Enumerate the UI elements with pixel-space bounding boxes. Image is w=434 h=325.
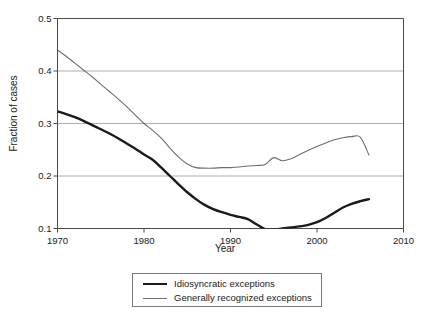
x-tick-label: 1980 <box>124 235 164 246</box>
x-tick-label: 2010 <box>384 235 424 246</box>
y-tick-label: 0.4 <box>26 65 52 76</box>
y-tick-label: 0.5 <box>26 13 52 24</box>
legend-label: Generally recognized exceptions <box>174 293 312 303</box>
chart-figure: Fraction of cases Year 0.10.20.30.40.5 1… <box>0 0 434 325</box>
y-tick-label: 0.2 <box>26 170 52 181</box>
series-line-0 <box>58 111 369 229</box>
y-tick-label: 0.1 <box>26 223 52 234</box>
legend-swatch-icon <box>143 298 167 299</box>
legend-label: Idiosyncratic exceptions <box>174 279 275 289</box>
x-tick-label: 1990 <box>211 235 251 246</box>
x-tick-label: 2000 <box>297 235 337 246</box>
legend-item-generally-recognized: Generally recognized exceptions <box>143 291 312 305</box>
series-line-1 <box>58 50 369 168</box>
legend-item-idiosyncratic: Idiosyncratic exceptions <box>143 277 275 291</box>
x-tick-label: 1970 <box>38 235 78 246</box>
legend-swatch-icon <box>143 283 167 285</box>
legend: Idiosyncratic exceptions Generally recog… <box>132 273 322 307</box>
y-tick-label: 0.3 <box>26 118 52 129</box>
